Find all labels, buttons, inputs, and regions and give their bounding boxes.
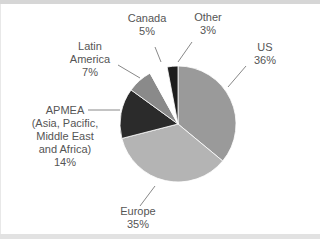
leader-us <box>228 66 246 87</box>
label-other: Other 3% <box>183 11 233 37</box>
label-latam-line1: Latin <box>65 40 115 53</box>
label-us-pct: 36% <box>240 54 290 67</box>
label-apmea-line4: and Africa) <box>25 143 105 156</box>
label-other-pct: 3% <box>183 24 233 37</box>
label-us-name: US <box>240 41 290 54</box>
label-us: US 36% <box>240 41 290 67</box>
pie-slices <box>120 66 236 182</box>
label-canada-pct: 5% <box>122 25 172 38</box>
label-europe: Europe 35% <box>113 205 163 231</box>
label-apmea-pct: 14% <box>25 156 105 169</box>
label-europe-name: Europe <box>113 205 163 218</box>
label-canada-name: Canada <box>122 12 172 25</box>
label-latam: Latin America 7% <box>65 40 115 79</box>
label-apmea-line3: Middle East <box>25 130 105 143</box>
label-apmea-line1: APMEA <box>25 104 105 117</box>
label-latam-line2: America <box>65 53 115 66</box>
leader-other <box>178 42 192 62</box>
leader-europe <box>140 186 155 206</box>
label-apmea-line2: (Asia, Pacific, <box>25 117 105 130</box>
label-other-name: Other <box>183 11 233 24</box>
label-canada: Canada 5% <box>122 12 172 38</box>
leader-canada <box>155 47 161 62</box>
label-europe-pct: 35% <box>113 218 163 231</box>
label-latam-pct: 7% <box>65 66 115 79</box>
leader-latam <box>118 65 140 78</box>
label-apmea: APMEA (Asia, Pacific, Middle East and Af… <box>25 104 105 169</box>
